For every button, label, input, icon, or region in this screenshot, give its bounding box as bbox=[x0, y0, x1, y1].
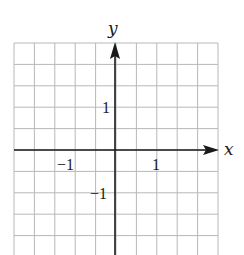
y-tick-label-neg1: −1 bbox=[90, 185, 107, 202]
x-tick-label-pos1: 1 bbox=[152, 156, 160, 173]
y-axis-label: y bbox=[107, 18, 118, 38]
x-tick-label-neg1: −1 bbox=[57, 156, 74, 173]
grid-lines bbox=[14, 43, 218, 255]
coordinate-grid: x y −1 1 1 −1 bbox=[0, 0, 244, 255]
x-axis-label: x bbox=[224, 139, 234, 159]
y-tick-label-pos1: 1 bbox=[102, 99, 110, 116]
